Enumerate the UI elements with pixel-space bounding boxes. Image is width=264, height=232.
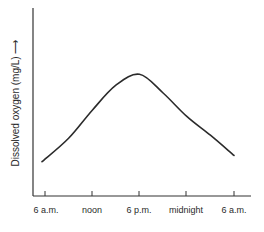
- x-tick-label-midnight: midnight: [169, 205, 203, 215]
- x-tick-label-6am-next: 6 a.m.: [221, 205, 246, 215]
- chart-canvas: [0, 0, 264, 232]
- y-axis-label: Dissolved oxygen (mg/L) ⟶: [10, 40, 21, 167]
- dissolved-oxygen-curve: [42, 74, 234, 162]
- x-tick-label-noon: noon: [82, 205, 102, 215]
- x-tick-label-6pm: 6 p.m.: [126, 205, 151, 215]
- x-tick-label-6am: 6 a.m.: [33, 205, 58, 215]
- up-arrow-icon: ⟶: [10, 40, 21, 54]
- y-axis-label-text: Dissolved oxygen (mg/L): [10, 56, 21, 166]
- x-ticks: [45, 191, 234, 196]
